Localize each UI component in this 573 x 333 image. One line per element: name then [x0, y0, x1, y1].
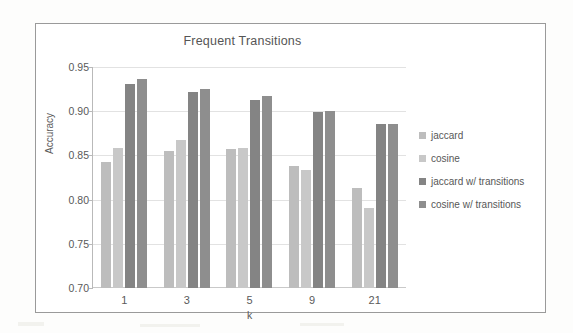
bar[interactable] — [113, 148, 123, 288]
chart-title: Frequent Transitions — [36, 34, 545, 48]
chart-legend: jaccardcosinejaccard w/ transitionscosin… — [419, 130, 543, 222]
y-axis-tick-label: 0.70 — [69, 282, 89, 294]
legend-swatch-icon — [419, 201, 426, 208]
bar[interactable] — [176, 140, 186, 288]
bar-group: 3 — [156, 67, 219, 288]
y-axis-tick-label: 0.80 — [69, 194, 89, 206]
y-axis-tick-label: 0.95 — [69, 61, 89, 73]
bar[interactable] — [289, 166, 299, 288]
bar[interactable] — [376, 124, 386, 288]
scan-artifact — [18, 322, 44, 326]
x-axis-tick-label: 9 — [281, 294, 344, 306]
x-axis-tick-label: 1 — [93, 294, 156, 306]
scan-artifact — [140, 324, 200, 327]
bar-group-bars — [93, 67, 156, 288]
bar[interactable] — [262, 96, 272, 288]
x-axis-title: k — [93, 309, 406, 321]
bar[interactable] — [125, 84, 135, 288]
chart-title-text: Frequent Transitions — [184, 34, 302, 48]
legend-item-label: cosine — [431, 153, 460, 164]
bar[interactable] — [313, 112, 323, 288]
legend-item[interactable]: jaccard — [419, 130, 543, 141]
legend-item[interactable]: jaccard w/ transitions — [419, 176, 543, 187]
bar[interactable] — [301, 170, 311, 288]
x-axis-tick-label: 21 — [343, 294, 406, 306]
bar[interactable] — [250, 100, 260, 288]
bar[interactable] — [325, 111, 335, 288]
bar-group-bars — [218, 67, 281, 288]
legend-item[interactable]: cosine w/ transitions — [419, 199, 543, 210]
bar-group: 9 — [281, 67, 344, 288]
bar-group-bars — [343, 67, 406, 288]
x-axis-tick-label: 3 — [156, 294, 219, 306]
scan-artifact — [300, 323, 344, 326]
bar[interactable] — [137, 79, 147, 288]
bar[interactable] — [188, 92, 198, 288]
legend-swatch-icon — [419, 132, 426, 139]
legend-swatch-icon — [419, 155, 426, 162]
legend-item-label: jaccard w/ transitions — [431, 176, 524, 187]
y-axis-tick — [89, 288, 93, 289]
bar[interactable] — [101, 162, 111, 288]
legend-item-label: cosine w/ transitions — [431, 199, 521, 210]
bar[interactable] — [238, 148, 248, 288]
bar-group-bars — [156, 67, 219, 288]
plot-area: 135921 — [93, 67, 406, 288]
chart-frame: Frequent Transitions Accuracy 0.950.900.… — [35, 23, 546, 313]
bar[interactable] — [364, 208, 374, 288]
bar[interactable] — [388, 124, 398, 288]
y-axis-tick-labels: 0.950.900.850.800.750.70 — [49, 67, 89, 288]
x-axis-tick-label: 5 — [218, 294, 281, 306]
bar[interactable] — [226, 149, 236, 288]
legend-item[interactable]: cosine — [419, 153, 543, 164]
legend-swatch-icon — [419, 178, 426, 185]
bar-group: 1 — [93, 67, 156, 288]
bar-group-bars — [281, 67, 344, 288]
scanned-page-background: Frequent Transitions Accuracy 0.950.900.… — [0, 0, 573, 333]
bar[interactable] — [200, 89, 210, 288]
y-axis-tick-label: 0.75 — [69, 238, 89, 250]
bar-group: 5 — [218, 67, 281, 288]
legend-item-label: jaccard — [431, 130, 463, 141]
bar[interactable] — [164, 151, 174, 288]
y-axis-tick-label: 0.90 — [69, 105, 89, 117]
bar[interactable] — [352, 188, 362, 288]
y-axis-tick-label: 0.85 — [69, 149, 89, 161]
bar-group: 21 — [343, 67, 406, 288]
